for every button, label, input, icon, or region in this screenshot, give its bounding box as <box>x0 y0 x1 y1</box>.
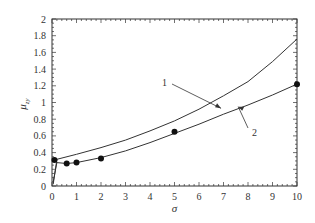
x-tick-label: 0 <box>50 191 55 202</box>
arrowhead-1 <box>215 103 221 108</box>
x-tick-label: 3 <box>123 191 128 202</box>
data-point <box>74 160 80 166</box>
data-point <box>98 155 104 161</box>
y-tick-label: 1.8 <box>34 30 47 41</box>
arrow-1 <box>172 84 221 108</box>
chart: 01234567891000.20.40.60.811.21.41.61.82 … <box>0 0 315 223</box>
curve-label-1: 1 <box>162 77 167 88</box>
data-point <box>64 160 70 166</box>
y-tick-label: 2 <box>41 14 46 25</box>
plot-frame <box>52 19 297 186</box>
x-tick-label: 8 <box>246 191 251 202</box>
data-points <box>51 81 300 166</box>
chart-svg: 01234567891000.20.40.60.811.21.41.61.82 … <box>0 0 315 223</box>
y-tick-label: 0 <box>41 181 46 192</box>
data-point <box>51 157 57 163</box>
data-point <box>172 129 178 135</box>
y-tick-label: 0.2 <box>34 164 47 175</box>
y-axis-label: μzy <box>16 97 31 110</box>
y-tick-label: 1.4 <box>34 64 47 75</box>
y-axis-label-subscript: zy <box>23 97 31 105</box>
x-tick-label: 1 <box>74 191 79 202</box>
x-tick-label: 10 <box>292 191 302 202</box>
y-tick-label: 0.8 <box>34 114 47 125</box>
y-tick-label: 1 <box>41 97 46 108</box>
x-tick-label: 4 <box>148 191 153 202</box>
y-tick-label: 1.6 <box>34 47 47 58</box>
x-tick-label: 2 <box>99 191 104 202</box>
axis-ticks: 01234567891000.20.40.60.811.21.41.61.82 <box>34 14 303 203</box>
curve-1 <box>53 39 297 184</box>
x-tick-label: 7 <box>221 191 226 202</box>
y-tick-label: 0.4 <box>34 147 47 158</box>
y-tick-label: 1.2 <box>34 80 47 91</box>
curve-label-2: 2 <box>252 127 257 138</box>
x-axis-label: σ <box>172 202 178 214</box>
data-point <box>294 81 300 87</box>
plot-frame-rect <box>52 19 297 186</box>
annotations: 12 <box>162 77 257 138</box>
x-tick-label: 6 <box>197 191 202 202</box>
arrow-2 <box>238 107 248 128</box>
x-tick-label: 5 <box>172 191 177 202</box>
y-tick-label: 0.6 <box>34 130 47 141</box>
curves <box>53 39 297 184</box>
x-tick-label: 9 <box>270 191 275 202</box>
